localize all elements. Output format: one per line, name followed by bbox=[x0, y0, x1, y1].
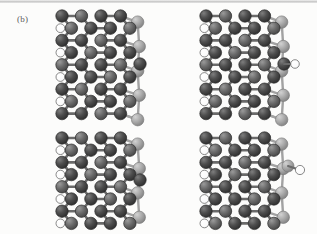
atom-carbon-dark bbox=[209, 168, 221, 180]
atom-carbon-dark bbox=[85, 193, 97, 205]
atom-carbon-dark bbox=[114, 59, 126, 71]
atom-carbon-dark bbox=[229, 168, 241, 180]
atom-carbon-dark bbox=[248, 144, 260, 156]
atom-carbon-dark bbox=[239, 132, 251, 144]
atom-carbon-dark bbox=[209, 46, 221, 58]
atom-carbon-dark bbox=[229, 22, 241, 34]
atom-carbon-dark bbox=[65, 217, 77, 229]
atom-carbon-dark bbox=[219, 156, 231, 168]
atom-carbon-dark bbox=[219, 132, 231, 144]
atom-carbon-dark bbox=[65, 95, 77, 107]
atom-hydrogen bbox=[56, 219, 65, 228]
atom-carbon-dark bbox=[209, 22, 221, 34]
atom-carbon-dark bbox=[95, 132, 107, 144]
atom-carbon-dark bbox=[104, 22, 116, 34]
atom-carbon-dark-adatom bbox=[134, 174, 146, 186]
atom-carbon-dark bbox=[56, 156, 68, 168]
atom-carbon-dark bbox=[209, 217, 221, 229]
atom-carbon-dark bbox=[239, 10, 251, 22]
atom-carbon-dark bbox=[268, 71, 280, 83]
atom-carbon-dark bbox=[85, 46, 97, 58]
atom-carbon-dark bbox=[200, 10, 212, 22]
atom-carbon-dark bbox=[200, 205, 212, 217]
atom-carbon-dark bbox=[85, 217, 97, 229]
atom-carbon-dark bbox=[258, 83, 270, 95]
atom-carbon-dark bbox=[75, 132, 87, 144]
atom-carbon-dark bbox=[248, 71, 260, 83]
atom-hydrogen bbox=[56, 170, 65, 179]
atom-carbon-dark bbox=[95, 156, 107, 168]
atom-carbon-dark bbox=[114, 132, 126, 144]
atom-carbon-dark bbox=[114, 107, 126, 119]
atom-carbon-dark bbox=[75, 10, 87, 22]
atom-carbon-dark bbox=[56, 83, 68, 95]
atom-carbon-dark bbox=[124, 193, 136, 205]
atom-carbon-dark bbox=[229, 144, 241, 156]
atom-carbon-dark bbox=[209, 144, 221, 156]
atom-carbon-dark bbox=[95, 107, 107, 119]
atom-carbon-dark bbox=[56, 59, 68, 71]
atom-carbon-dark bbox=[56, 181, 68, 193]
atom-carbon-dark bbox=[75, 107, 87, 119]
atom-carbon-dark bbox=[239, 83, 251, 95]
atom-carbon-dark bbox=[268, 168, 280, 180]
atom-carbon-dark bbox=[85, 95, 97, 107]
atom-carbon-dark bbox=[114, 156, 126, 168]
atom-carbon-dark bbox=[248, 217, 260, 229]
atom-carbon-dark bbox=[56, 34, 68, 46]
atom-carbon-dark bbox=[124, 95, 136, 107]
atom-carbon-dark bbox=[65, 144, 77, 156]
atom-carbon-dark bbox=[104, 168, 116, 180]
atom-carbon-dark bbox=[229, 46, 241, 58]
atom-carbon-dark bbox=[219, 10, 231, 22]
atom-carbon-dark bbox=[114, 181, 126, 193]
atom-carbon-dark bbox=[104, 95, 116, 107]
atom-hydrogen bbox=[200, 73, 209, 82]
atom-carbon-dark bbox=[56, 107, 68, 119]
atom-carbon-dark bbox=[209, 71, 221, 83]
atom-carbon-dark bbox=[104, 46, 116, 58]
molecular-structure-canvas bbox=[0, 0, 317, 234]
atom-carbon-dark bbox=[124, 217, 136, 229]
atom-carbon-dark bbox=[258, 107, 270, 119]
atom-carbon-dark bbox=[75, 34, 87, 46]
atom-hydrogen bbox=[56, 24, 65, 33]
atom-carbon-dark bbox=[258, 34, 270, 46]
atom-carbon-dark bbox=[248, 193, 260, 205]
atom-carbon-dark bbox=[209, 95, 221, 107]
atom-carbon-dark bbox=[75, 83, 87, 95]
atom-carbon-dark bbox=[104, 217, 116, 229]
atom-hydrogen bbox=[56, 146, 65, 155]
atom-carbon-dark bbox=[258, 156, 270, 168]
atom-carbon-dark bbox=[124, 22, 136, 34]
atom-carbon-dark bbox=[56, 10, 68, 22]
atom-carbon-dark bbox=[200, 34, 212, 46]
atom-carbon-dark bbox=[104, 193, 116, 205]
atom-carbon-dark bbox=[248, 168, 260, 180]
atom-carbon-dark bbox=[268, 22, 280, 34]
atom-carbon-dark bbox=[229, 217, 241, 229]
atom-carbon-dark bbox=[268, 144, 280, 156]
atom-carbon-dark bbox=[124, 46, 136, 58]
atom-carbon-dark bbox=[75, 59, 87, 71]
atom-carbon-dark bbox=[95, 59, 107, 71]
atom-carbon-dark bbox=[239, 156, 251, 168]
atom-carbon-dark bbox=[200, 59, 212, 71]
atom-carbon-dark bbox=[85, 168, 97, 180]
atom-carbon-dark bbox=[268, 193, 280, 205]
atom-carbon-light bbox=[131, 114, 143, 126]
atom-carbon-dark bbox=[124, 144, 136, 156]
atom-carbon-dark bbox=[85, 22, 97, 34]
atom-carbon-dark bbox=[229, 193, 241, 205]
atom-carbon-dark bbox=[104, 144, 116, 156]
atom-carbon-dark bbox=[65, 22, 77, 34]
atom-carbon-dark bbox=[114, 10, 126, 22]
atom-carbon-dark bbox=[56, 132, 68, 144]
atom-hydrogen bbox=[200, 146, 209, 155]
atom-hydrogen bbox=[291, 60, 300, 69]
atom-carbon-dark bbox=[248, 22, 260, 34]
atom-carbon-dark bbox=[239, 107, 251, 119]
atom-hydrogen bbox=[200, 24, 209, 33]
atom-carbon-dark bbox=[258, 59, 270, 71]
atom-carbon-dark bbox=[114, 205, 126, 217]
